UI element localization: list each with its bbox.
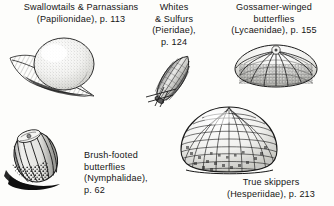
caption-line: p. 124 xyxy=(143,37,205,49)
caption-gossamer-winged: Gossamer-winged butterflies (Lycaenidae)… xyxy=(214,2,334,37)
caption-line: Brush-footed xyxy=(84,150,184,162)
illustration-whites-egg xyxy=(142,50,204,108)
illustration-skipper-egg xyxy=(176,104,282,176)
caption-line: butterflies xyxy=(84,162,184,174)
caption-true-skippers: True skippers (Hesperiidae), p. 213 xyxy=(208,177,334,200)
caption-brush-footed: Brush-footed butterflies (Nymphalidae), … xyxy=(84,150,184,196)
caption-line: Whites xyxy=(143,2,205,14)
caption-line: (Papilionidae), p. 113 xyxy=(6,14,156,26)
caption-line: Swallowtails & Parnassians xyxy=(6,2,156,14)
caption-line: Gossamer-winged xyxy=(214,2,334,14)
figure-canvas: Swallowtails & Parnassians (Papilionidae… xyxy=(0,0,334,206)
caption-whites-sulfurs: Whites & Sulfurs (Pieridae), p. 124 xyxy=(143,2,205,48)
caption-line: (Pieridae), xyxy=(143,25,205,37)
caption-line: (Hesperiidae), p. 213 xyxy=(208,189,334,201)
caption-line: (Nymphalidae), xyxy=(84,173,184,185)
caption-line: & Sulfurs xyxy=(143,14,205,26)
caption-line: p. 62 xyxy=(84,185,184,197)
illustration-swallowtail-egg xyxy=(8,36,116,102)
illustration-brushfooted-egg xyxy=(2,126,72,194)
caption-line: True skippers xyxy=(208,177,334,189)
caption-swallowtails-parnassians: Swallowtails & Parnassians (Papilionidae… xyxy=(6,2,156,25)
illustration-gossamer-egg xyxy=(231,42,321,90)
caption-line: butterflies xyxy=(214,14,334,26)
caption-line: (Lycaenidae), p. 155 xyxy=(214,25,334,37)
